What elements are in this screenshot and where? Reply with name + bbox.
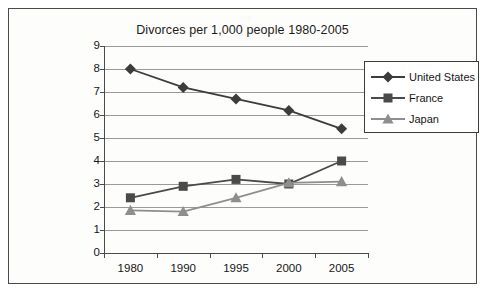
diamond-marker-icon [371, 70, 405, 84]
legend-item-united-states[interactable]: United States [371, 67, 475, 87]
y-axis-tick-label: 3 [78, 177, 100, 189]
x-axis-tick-mark [368, 253, 369, 258]
chart-title: Divorces per 1,000 people 1980-2005 [9, 23, 476, 37]
y-axis-tick-label: 9 [78, 39, 100, 51]
chart-legend: United StatesFranceJapan [364, 61, 479, 133]
x-axis-tick-label: 1995 [211, 262, 261, 274]
triangle-marker-icon [371, 112, 405, 126]
series-layer [104, 46, 368, 254]
plot-area: 0123456789 19801990199520002005 [104, 46, 368, 253]
y-axis-tick-label: 1 [78, 223, 100, 235]
x-axis-tick-label: 2005 [317, 262, 367, 274]
legend-item-japan[interactable]: Japan [371, 109, 439, 129]
y-axis-tick-label: 8 [78, 62, 100, 74]
y-axis-tick-label: 7 [78, 85, 100, 97]
legend-item-france[interactable]: France [371, 88, 443, 108]
x-axis-tick-label: 1990 [158, 262, 208, 274]
y-axis-tick-label: 6 [78, 108, 100, 120]
y-axis-tick-label: 4 [78, 154, 100, 166]
legend-label: France [409, 92, 443, 104]
y-axis-tick-label: 2 [78, 200, 100, 212]
square-marker-icon [371, 91, 405, 105]
legend-label: United States [409, 71, 475, 83]
x-axis-tick-label: 1980 [105, 262, 155, 274]
legend-label: Japan [409, 113, 439, 125]
x-axis-tick-label: 2000 [264, 262, 314, 274]
series-united-states [125, 64, 347, 135]
y-axis-tick-label: 5 [78, 131, 100, 143]
y-axis-tick-label: 0 [78, 246, 100, 258]
chart-frame: Divorces per 1,000 people 1980-2005 0123… [8, 8, 477, 284]
